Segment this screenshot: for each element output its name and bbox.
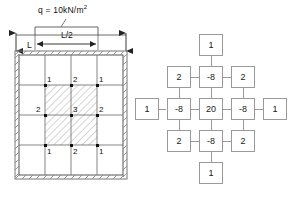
grid-node-label-0-2: 1 [99, 76, 103, 84]
grid-node-label-0-0: 1 [47, 76, 51, 84]
grid-node-label-2-2: 1 [99, 148, 103, 156]
grid-node-dot [44, 114, 47, 117]
stencil-cell-value: -8 [207, 136, 215, 146]
overall-width-dimension [16, 33, 126, 51]
load-leader-line [61, 19, 66, 27]
stencil-link-horizontal [191, 77, 199, 78]
stencil-cell-value: -8 [207, 72, 215, 82]
stencil-cell-value: 1 [144, 104, 149, 114]
grid-node-label-1-0: 2 [36, 106, 40, 114]
stencil-cell-value: 1 [208, 168, 213, 178]
stencil-cell-value: -8 [175, 104, 183, 114]
grid-node-label-1-2: 2 [99, 106, 103, 114]
figure-root: q = 10kN/m2 L L/2 [0, 0, 297, 197]
load-bracket [35, 27, 98, 35]
stencil-link-horizontal [223, 77, 231, 78]
stencil-cell-middle-left[interactable]: -8 [167, 98, 191, 120]
stencil-diagram: 1 2 -8 2 1 -8 20 -8 1 2 [150, 0, 297, 197]
half-width-dimension [35, 35, 98, 50]
stencil-link-horizontal [223, 141, 231, 142]
stencil-cell-right-far[interactable]: 1 [263, 98, 287, 120]
stencil-cell-upper-center[interactable]: -8 [199, 66, 223, 88]
grid-node-label-2-1: 2 [73, 148, 77, 156]
stencil-cell-value: 2 [176, 72, 181, 82]
stencil-cell-middle-right[interactable]: -8 [231, 98, 255, 120]
grid-node-label-2-0: 1 [47, 148, 51, 156]
stencil-cell-upper-left[interactable]: 2 [167, 66, 191, 88]
stencil-cell-value: 1 [272, 104, 277, 114]
stencil-link-horizontal [223, 109, 231, 110]
stencil-cell-lower-center[interactable]: -8 [199, 130, 223, 152]
stencil-cell-value: -8 [239, 104, 247, 114]
stencil-link-horizontal [191, 109, 199, 110]
stencil-link-horizontal [191, 141, 199, 142]
grid-node-label-0-1: 2 [73, 76, 77, 84]
stencil-cell-value: 2 [176, 136, 181, 146]
grid-node-label-1-1: 3 [73, 106, 77, 114]
stencil-cell-upper-right[interactable]: 2 [231, 66, 255, 88]
slab-plan-diagram: q = 10kN/m2 L L/2 [0, 0, 150, 197]
stencil-cell-top-far[interactable]: 1 [199, 34, 223, 56]
stencil-cell-value: 20 [206, 104, 216, 114]
stencil-cell-value: 2 [240, 136, 245, 146]
stencil-cell-value: 1 [208, 40, 213, 50]
stencil-cell-value: 2 [240, 72, 245, 82]
stencil-cell-center[interactable]: 20 [199, 98, 223, 120]
stencil-cell-lower-left[interactable]: 2 [167, 130, 191, 152]
stencil-cell-lower-right[interactable]: 2 [231, 130, 255, 152]
stencil-cell-bottom-far[interactable]: 1 [199, 162, 223, 184]
stencil-cell-left-far[interactable]: 1 [135, 98, 159, 120]
slab-plan-vectors [0, 0, 150, 197]
